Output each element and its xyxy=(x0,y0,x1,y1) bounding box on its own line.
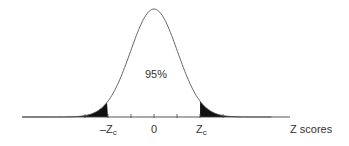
tick-label-zc: Zc xyxy=(196,124,207,137)
right-tail-shaded-region xyxy=(200,101,269,117)
left-tail-shaded-region xyxy=(44,102,108,117)
center-area-label: 95% xyxy=(145,69,167,80)
bell-curve xyxy=(22,9,271,117)
tick-label-zero: 0 xyxy=(151,124,157,135)
tick-label-neg-zc: –Zc xyxy=(100,124,117,137)
x-axis-title: Z scores xyxy=(290,124,332,135)
